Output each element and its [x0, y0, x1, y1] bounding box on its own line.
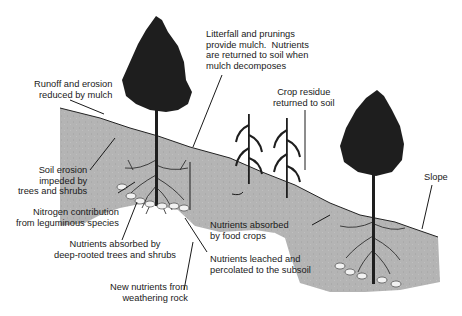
label-new-nutrients: New nutrients from weathering rock [110, 282, 188, 303]
label-runoff: Runoff and erosion reduced by mulch [34, 79, 112, 100]
label-crop-residue: Crop residue returned to soil [273, 87, 335, 108]
agroforestry-diagram: Runoff and erosion reduced by mulch Litt… [0, 0, 462, 316]
label-soil-erosion: Soil erosion impeded by trees and shrubs [18, 165, 87, 197]
label-absorbed-deep: Nutrients absorbed by deep-rooted trees … [54, 239, 176, 260]
label-slope: Slope [424, 172, 448, 183]
label-litterfall: Litterfall and prunings provide mulch. N… [206, 29, 309, 71]
label-leached: Nutrients leached and percolated to the … [210, 254, 311, 275]
label-nitrogen: Nitrogen contribution from leguminous sp… [16, 207, 119, 228]
label-absorbed-crops: Nutrients absorbed by food crops [210, 220, 289, 241]
